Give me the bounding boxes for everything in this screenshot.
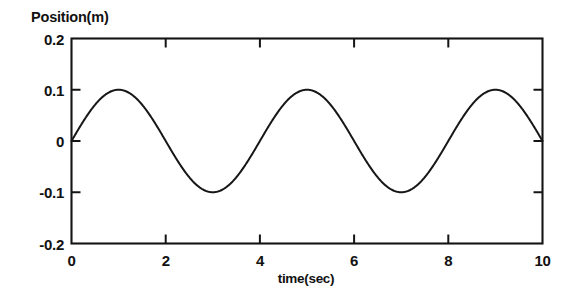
- y-tick-label-4: 0.2: [44, 31, 64, 48]
- x-tick-label-5: 10: [534, 252, 550, 269]
- x-tick-label-1: 2: [162, 252, 170, 269]
- y-tick-labels-group: -0.2-0.100.10.2: [39, 31, 64, 253]
- x-tick-label-4: 8: [444, 252, 452, 269]
- figure-canvas: Position(m) 0246810 -0.2-0.100.10.2 time…: [0, 0, 579, 288]
- plot-frame: [72, 39, 543, 244]
- y-axis-title: Position(m): [31, 9, 109, 25]
- y-tick-label-0: -0.2: [39, 236, 64, 253]
- axis-ticks-group: [72, 39, 543, 244]
- x-tick-label-2: 4: [256, 252, 265, 269]
- x-tick-label-3: 6: [350, 252, 358, 269]
- chart-plot: Position(m) 0246810 -0.2-0.100.10.2 time…: [0, 0, 579, 288]
- x-tick-label-0: 0: [67, 252, 75, 269]
- y-tick-label-2: 0: [56, 133, 64, 150]
- x-tick-labels-group: 0246810: [67, 252, 550, 269]
- y-tick-label-1: -0.1: [39, 184, 64, 201]
- y-tick-label-3: 0.1: [44, 82, 64, 99]
- x-axis-label: time(sec): [278, 271, 335, 286]
- data-series-position: [72, 90, 543, 193]
